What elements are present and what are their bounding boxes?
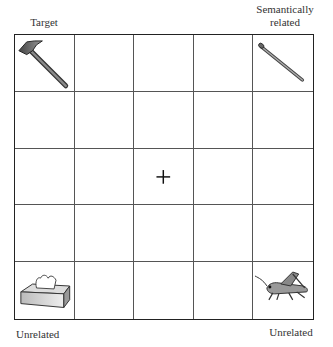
grid-cell-1-3	[194, 92, 254, 149]
grid-cell-3-4	[253, 205, 313, 262]
label-semantically-related-line1: Semantically	[240, 3, 330, 16]
grid-cell-4-0	[15, 262, 75, 319]
grid-cell-0-3	[194, 35, 254, 92]
grid-cell-2-2	[134, 149, 194, 206]
grid-cell-3-3	[194, 205, 254, 262]
grid-cell-0-2	[134, 35, 194, 92]
hammer-icon	[15, 35, 74, 91]
grid-cell-1-2	[134, 92, 194, 149]
grid-cell-0-0	[15, 35, 75, 92]
label-target: Target	[14, 16, 74, 29]
grid-cell-4-4	[253, 262, 313, 319]
grid-cell-4-3	[194, 262, 254, 319]
grid-cell-2-3	[194, 149, 254, 206]
grid-cell-3-2	[134, 205, 194, 262]
grid-cell-2-0	[15, 149, 75, 206]
grid-cell-0-4	[253, 35, 313, 92]
grid-cell-1-0	[15, 92, 75, 149]
grid-cell-2-4	[253, 149, 313, 206]
fixation-cross-icon	[134, 149, 193, 205]
label-semantically-related: Semantically related	[240, 3, 330, 29]
grid-cell-4-2	[134, 262, 194, 319]
label-semantically-related-line2: related	[240, 16, 330, 29]
grasshopper-icon	[253, 262, 313, 319]
nail-icon	[253, 35, 313, 91]
label-unrelated-bottom-right: Unrelated	[256, 326, 326, 339]
grid-cell-3-1	[75, 205, 135, 262]
grid-cell-2-1	[75, 149, 135, 206]
label-unrelated-bottom-left: Unrelated	[16, 328, 76, 341]
tissue-box-icon	[15, 262, 74, 319]
visual-world-grid	[14, 34, 314, 320]
grid-cell-0-1	[75, 35, 135, 92]
grid-cell-3-0	[15, 205, 75, 262]
grid-cell-1-1	[75, 92, 135, 149]
grid-cell-1-4	[253, 92, 313, 149]
grid-cell-4-1	[75, 262, 135, 319]
